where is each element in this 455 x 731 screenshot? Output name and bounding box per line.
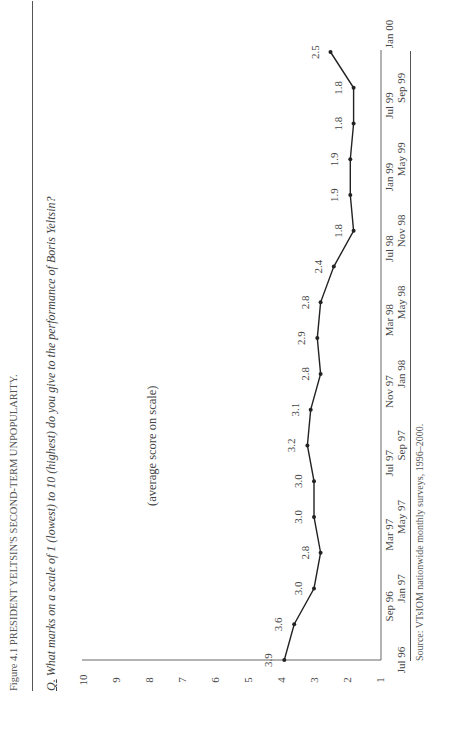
data-point <box>319 372 323 376</box>
data-value-label: 3.2 <box>285 439 297 453</box>
data-value-label: 1.8 <box>332 80 344 94</box>
x-tick-label: May 99 <box>395 142 407 176</box>
data-point <box>348 193 352 197</box>
data-value-label: 2.9 <box>295 331 307 345</box>
y-tick-label: 8 <box>143 677 155 683</box>
x-tick-label: Jan 99 <box>383 162 395 191</box>
y-tick-label: 6 <box>209 677 221 683</box>
data-point <box>312 586 316 590</box>
x-tick-label: Jul 99 <box>383 92 395 119</box>
data-value-label: 2.8 <box>299 367 311 381</box>
data-line <box>284 52 353 660</box>
line-chart: 123456789103.93.63.02.83.03.03.23.12.82.… <box>0 0 455 731</box>
x-tick-label: Mar 98 <box>383 304 395 337</box>
data-point <box>352 86 356 90</box>
y-tick-label: 4 <box>275 677 287 683</box>
data-value-label: 1.9 <box>328 188 340 202</box>
data-value-label: 3.0 <box>292 581 304 595</box>
data-value-label: 3.1 <box>289 403 301 417</box>
data-point <box>348 157 352 161</box>
x-tick-label: Sep 99 <box>395 72 407 103</box>
data-point <box>292 622 296 626</box>
data-point <box>329 50 333 54</box>
data-point <box>309 408 313 412</box>
data-value-label: 2.8 <box>299 545 311 559</box>
data-point <box>305 443 309 447</box>
data-point <box>319 300 323 304</box>
rotated-figure-page: Figure 4.1 PRESIDENT YELTSIN'S SECOND-TE… <box>0 0 455 731</box>
x-tick-label: Jan 00 <box>383 19 395 48</box>
y-tick-label: 1 <box>374 677 386 683</box>
data-point <box>312 479 316 483</box>
y-tick-label: 2 <box>341 677 353 683</box>
data-point <box>312 515 316 519</box>
bottom-rule <box>410 51 411 661</box>
data-point <box>282 658 286 662</box>
x-tick-label: May 98 <box>395 285 407 319</box>
data-point <box>332 265 336 269</box>
data-value-label: 1.9 <box>328 152 340 166</box>
data-value-label: 2.8 <box>299 295 311 309</box>
data-value-label: 2.5 <box>309 45 321 59</box>
data-value-label: 3.0 <box>292 510 304 524</box>
x-tick-label: Nov 97 <box>383 375 395 408</box>
data-value-label: 3.9 <box>262 653 274 667</box>
y-tick-label: 7 <box>176 677 188 683</box>
x-tick-label: Sep 97 <box>395 430 407 461</box>
data-value-label: 2.4 <box>312 259 324 273</box>
data-value-label: 3.0 <box>292 474 304 488</box>
x-tick-label: Jul 98 <box>383 235 395 262</box>
y-tick-label: 10 <box>77 674 89 686</box>
x-tick-label: Jul 96 <box>395 646 407 673</box>
x-tick-label: Jan 98 <box>395 359 407 388</box>
data-point <box>319 551 323 555</box>
data-point <box>315 336 319 340</box>
x-tick-label: Nov 98 <box>395 214 407 247</box>
data-value-label: 3.6 <box>272 617 284 631</box>
x-tick-label: Sep 96 <box>383 591 395 622</box>
x-tick-label: May 97 <box>395 499 407 533</box>
x-tick-label: Jul 97 <box>383 449 395 476</box>
source-note: Source: VTsIOM nationwide monthly survey… <box>414 424 425 661</box>
y-tick-label: 9 <box>110 677 122 683</box>
data-value-label: 1.8 <box>332 116 344 130</box>
y-tick-label: 5 <box>242 677 254 683</box>
y-tick-label: 3 <box>308 677 320 683</box>
data-point <box>352 122 356 126</box>
x-tick-label: Mar 97 <box>383 518 395 551</box>
data-value-label: 1.8 <box>332 223 344 237</box>
x-tick-label: Jan 97 <box>395 574 407 603</box>
data-point <box>352 229 356 233</box>
